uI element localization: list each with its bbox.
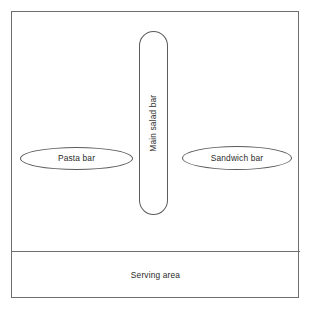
station-main-salad-bar-label: Main salad bar xyxy=(149,94,157,151)
zone-serving-area: Serving area xyxy=(11,252,300,298)
station-main-salad-bar[interactable]: Main salad bar xyxy=(139,31,168,215)
zone-serving-area-label: Serving area xyxy=(131,271,180,279)
station-pasta-bar[interactable]: Pasta bar xyxy=(20,147,133,170)
station-sandwich-bar[interactable]: Sandwich bar xyxy=(182,146,292,170)
station-sandwich-bar-label: Sandwich bar xyxy=(211,154,264,162)
cafeteria-floor-plan: Pasta bar Main salad bar Sandwich bar Se… xyxy=(0,0,310,313)
station-pasta-bar-label: Pasta bar xyxy=(58,154,95,162)
